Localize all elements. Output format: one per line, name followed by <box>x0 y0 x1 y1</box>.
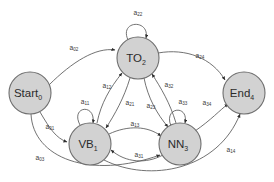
edge-a13 <box>109 128 161 136</box>
edge-a12 <box>97 73 122 123</box>
edge-a24 <box>158 52 225 80</box>
edge-label-a34: a34 <box>203 99 212 107</box>
edge-labels-layer: a02 a01 a03 a11 a22 a33 a12 a21 a23 a32 … <box>36 9 236 162</box>
edge-a34 <box>195 104 228 131</box>
edge-label-a21: a21 <box>126 99 135 107</box>
edge-label-a22: a22 <box>134 9 143 17</box>
edge-label-a11: a11 <box>81 98 90 106</box>
state-diagram-svg: a02 a01 a03 a11 a22 a33 a12 a21 a23 a32 … <box>0 0 274 182</box>
edge-label-a31: a31 <box>135 151 144 159</box>
edge-label-a32: a32 <box>165 81 174 89</box>
node-start[interactable]: Start0 <box>9 72 51 114</box>
node-end[interactable]: End4 <box>223 72 265 114</box>
edge-label-a02: a02 <box>70 44 79 52</box>
edge-label-a23: a23 <box>147 102 156 110</box>
node-vb[interactable]: VB1 <box>69 123 111 165</box>
node-start-label: Start0 <box>14 87 42 100</box>
edge-a02 <box>49 50 115 85</box>
node-to[interactable]: TO2 <box>117 37 159 79</box>
edge-label-a03: a03 <box>36 154 45 162</box>
edge-label-a13: a13 <box>131 120 140 128</box>
edge-label-a24: a24 <box>196 52 205 60</box>
edge-label-a14: a14 <box>227 146 236 154</box>
edge-label-a33: a33 <box>179 98 188 106</box>
state-diagram-canvas: a02 a01 a03 a11 a22 a33 a12 a21 a23 a32 … <box>0 0 274 182</box>
node-nn[interactable]: NN3 <box>159 123 201 165</box>
edge-label-a12: a12 <box>103 82 112 90</box>
edge-label-a01: a01 <box>46 123 55 131</box>
